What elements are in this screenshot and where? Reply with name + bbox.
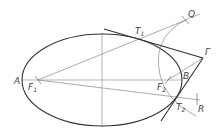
label-f1: F1 (28, 82, 37, 93)
label-t2: T2 (176, 102, 186, 113)
label-f2: F2 (157, 82, 166, 93)
label-a: A (13, 76, 20, 86)
label-p: Γ (205, 47, 211, 57)
label-b: B (183, 71, 189, 81)
label-t1: T1 (135, 26, 144, 37)
line-f1-r (38, 80, 200, 100)
ellipse-tangent-diagram: A F1 F2 B Q Γ R T1 T2 (0, 0, 223, 134)
construction-arc (158, 14, 200, 116)
label-q: Q (188, 9, 195, 19)
line-f1-q (38, 20, 186, 80)
label-r: R (198, 104, 204, 114)
